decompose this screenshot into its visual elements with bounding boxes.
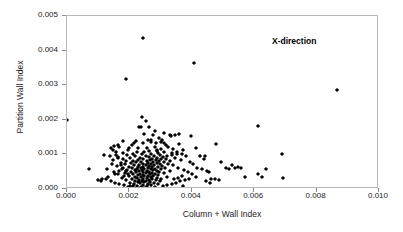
data-point [102,153,106,157]
data-point [153,129,157,133]
data-point [153,185,157,187]
x-tick-label: 0.006 [231,191,275,200]
data-point [192,61,196,65]
data-point [165,174,169,178]
data-point [256,124,260,128]
data-point [195,165,199,169]
plot-area [66,15,378,188]
x-direction-annotation: X-direction [272,36,316,46]
y-tick-mark [62,50,66,51]
data-points-layer [67,16,377,187]
x-axis-title: Column + Wall Index [66,209,378,219]
data-point [193,146,197,150]
data-point [147,125,151,129]
x-tick-label: 0.004 [169,191,213,200]
x-tick-label: 0.010 [356,191,400,200]
data-point [141,36,145,40]
y-tick-mark [62,188,66,189]
data-point [280,152,284,156]
y-tick-label: 0.005 [18,10,58,19]
data-point [176,165,180,169]
data-point [169,182,173,186]
data-point [239,165,243,169]
data-point [142,132,146,136]
x-tick-label: 0.008 [294,191,338,200]
data-point [173,181,177,185]
data-point [183,178,187,182]
data-point [264,167,268,171]
data-point [99,179,103,183]
x-tick-label: 0.002 [106,191,150,200]
data-point [143,119,147,123]
y-axis-title: Partition Wall Index [15,22,25,172]
data-point [178,179,182,183]
data-point [226,167,230,171]
data-point [187,177,191,181]
x-tick-label: 0.000 [44,191,88,200]
data-point [87,167,91,171]
data-point [207,170,211,174]
data-point [105,167,109,171]
y-tick-mark [62,119,66,120]
data-point [217,178,221,182]
data-point [124,77,128,81]
data-point [202,156,206,160]
data-point [208,181,212,185]
data-point [181,183,185,187]
data-point [171,163,175,167]
data-point [141,141,145,145]
data-point [219,160,223,164]
y-tick-mark [62,84,66,85]
data-point [335,88,339,92]
data-point [168,169,172,173]
data-point [260,175,264,179]
y-tick-mark [62,153,66,154]
data-point [197,154,201,158]
data-point [177,132,181,136]
data-point [243,175,247,179]
y-tick-mark [62,15,66,16]
y-tick-label: 0.000 [18,183,58,192]
data-point [191,162,195,166]
data-point [169,134,173,138]
data-point [177,142,181,146]
data-point [115,156,119,160]
data-point [281,176,285,180]
data-point [214,142,218,146]
data-point [173,156,177,160]
data-point [200,167,204,171]
data-point [117,182,121,186]
data-point [67,118,69,122]
data-point [179,158,183,162]
data-point [135,150,139,154]
data-point [162,131,166,135]
data-point [140,115,144,119]
data-point [120,139,124,143]
data-point [184,154,188,158]
scatter-chart-figure: 0.0000.0020.0040.0060.0080.010 0.0000.00… [0,0,403,232]
data-point [126,185,130,187]
data-point [194,175,198,179]
data-point [189,134,193,138]
